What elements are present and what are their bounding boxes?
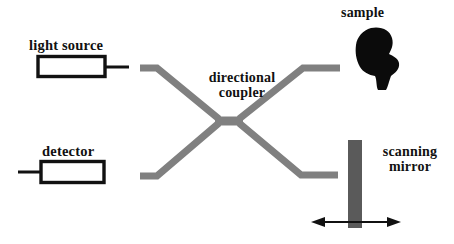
waveguide-lower-right xyxy=(239,123,338,175)
sample-blob xyxy=(356,27,399,90)
light-source-box xyxy=(38,57,105,77)
light-source-component xyxy=(38,57,129,77)
detector-box xyxy=(41,162,104,183)
detector-component xyxy=(18,162,104,183)
label-detector: detector xyxy=(42,144,94,159)
scanning-mirror-bar xyxy=(348,140,362,228)
label-scanning-mirror-line1: scanning xyxy=(375,145,445,160)
sample-shape xyxy=(356,27,399,90)
label-directional-coupler-line2: coupler xyxy=(196,86,288,101)
waveguide-lower-left xyxy=(140,123,219,176)
label-scanning-mirror: scanning mirror xyxy=(375,145,445,175)
scan-arrow-head-right xyxy=(387,217,401,227)
label-directional-coupler-line1: directional xyxy=(196,71,288,86)
interferometer-diagram: light source detector directional couple… xyxy=(0,0,454,244)
label-light-source: light source xyxy=(29,38,103,53)
label-sample: sample xyxy=(341,6,384,21)
label-directional-coupler: directional coupler xyxy=(196,71,288,101)
scan-arrow-head-left xyxy=(311,217,325,227)
label-scanning-mirror-line2: mirror xyxy=(375,160,445,175)
